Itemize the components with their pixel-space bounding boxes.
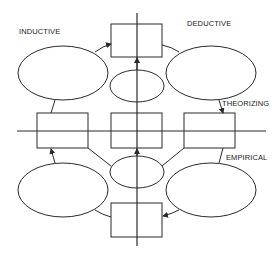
line-left-to-bottomcenter (88, 148, 111, 166)
research-cycle-diagram (0, 0, 279, 257)
label-deductive: DEDUCTIVE (187, 19, 231, 28)
line-bottomleft-to-bottom (95, 210, 111, 217)
line-right-to-bottomright (219, 148, 223, 163)
arrow-bottomright-to-bottom (163, 210, 179, 216)
ellipse-bottom-right (166, 163, 256, 217)
ellipse-top-left (18, 46, 108, 100)
ellipse-top-right (166, 46, 256, 100)
arrow-topleft-to-top (95, 44, 111, 52)
arrow-bottomleft-to-left (51, 149, 55, 163)
line-top-to-topright (162, 45, 179, 52)
label-inductive: INDUCTIVE (19, 27, 60, 36)
line-right-to-bottomcenter (162, 148, 184, 166)
label-empirical: EMPIRICAL (226, 153, 267, 162)
label-theorizing: THEORIZING (222, 99, 269, 108)
line-topleft-to-left (51, 100, 55, 113)
ellipse-bottom-left (18, 163, 108, 217)
